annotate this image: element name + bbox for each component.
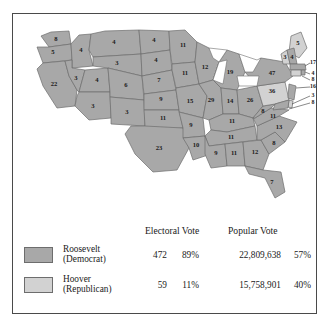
state-vote-il: 29 [208,96,215,103]
state-vote-nc: 13 [276,123,283,130]
state-FL [245,166,285,198]
state-vote-de: 3 [312,92,315,98]
candidate-name: Roosevelt [63,244,100,254]
electoral-votes-hoover: 59 [141,280,167,290]
state-vote-ky: 11 [229,117,235,124]
state-MA [290,64,306,70]
state-vote-pa: 36 [269,87,276,94]
state-vote-in: 14 [227,97,234,104]
state-NJ [288,84,296,100]
state-vote-la: 10 [193,141,200,148]
candidate-party: (Democrat) [63,254,106,264]
state-vote-ca: 22 [51,80,58,87]
popular-pct-hoover: 40% [285,280,311,290]
us-electoral-map: 8522434343634479112311111591012192914261… [13,14,318,219]
state-RI [301,70,305,75]
popular-votes-roosevelt: 22,809,638 [215,250,281,260]
election-map-figure: 8522434343634479112311111591012192914261… [12,13,317,314]
state-vote-md: 8 [312,99,315,105]
legend-swatch-roosevelt [24,247,53,263]
column-header-electoral: Electoral Vote [145,225,199,236]
popular-votes-hoover: 15,758,901 [215,280,281,290]
state-vote-mi: 19 [227,68,234,75]
candidate-name: Hoover [63,274,91,284]
state-vote-ok: 11 [160,114,166,121]
state-vote-tx: 23 [156,144,163,151]
state-vote-ia: 11 [182,69,188,76]
results-legend: Electoral Vote Popular Vote Roosevelt (D… [13,219,318,315]
legend-candidate-roosevelt: Roosevelt (Democrat) [63,244,106,265]
column-header-popular: Popular Vote [228,225,277,236]
candidate-party: (Republican) [63,284,112,294]
legend-swatch-hoover [24,277,53,293]
state-vote-oh: 26 [247,96,254,103]
state-CT [291,70,301,76]
electoral-votes-roosevelt: 472 [141,250,167,260]
state-vote-va: 11 [270,112,276,119]
state-vote-ct: 8 [312,76,315,82]
electoral-pct-hoover: 11% [173,280,199,290]
state-vote-nj: 16 [310,83,316,89]
us-map-svg: 8522434343634479112311111591012192914261… [13,14,318,219]
state-vote-mn: 11 [180,41,186,48]
state-vote-al: 11 [231,149,237,156]
legend-candidate-hoover: Hoover (Republican) [63,274,112,295]
state-vote-mo: 15 [187,97,194,104]
state-vote-wi: 12 [202,63,209,70]
electoral-pct-roosevelt: 89% [173,250,199,260]
state-vote-ma: 17 [310,59,316,65]
state-vote-tn: 11 [228,133,234,140]
popular-pct-roosevelt: 57% [285,250,311,260]
state-vote-ny: 47 [269,69,276,76]
state-vote-ga: 12 [252,148,259,155]
